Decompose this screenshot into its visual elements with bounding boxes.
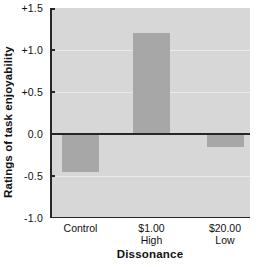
gridline: [50, 176, 250, 177]
bar: [207, 134, 244, 147]
y-tick-mark: [50, 175, 55, 177]
bar: [62, 134, 99, 172]
y-tick-label: +1.5: [21, 2, 43, 14]
y-tick-label: 0.0: [28, 128, 43, 140]
y-tick-mark: [50, 217, 55, 219]
x-tick-label: Control: [64, 222, 98, 234]
y-tick-label: +0.5: [21, 86, 43, 98]
x-tick-label-line: Control: [64, 222, 98, 234]
zero-line: [50, 133, 250, 135]
x-tick-labels: Control$1.00High$20.00Low: [50, 222, 250, 248]
bar: [133, 33, 170, 134]
x-tick-label-line: Low: [209, 234, 241, 246]
x-tick-label: $1.00High: [138, 222, 164, 246]
x-tick-label-line: High: [138, 234, 164, 246]
x-tick-label: $20.00Low: [209, 222, 241, 246]
x-axis-title: Dissonance: [50, 248, 250, 260]
x-tick-label-line: $1.00: [138, 222, 164, 234]
y-tick-mark: [50, 133, 55, 135]
y-tick-label: +1.0: [21, 44, 43, 56]
y-tick-labels: +1.5+1.0+0.50.0-0.5-1.0: [0, 8, 46, 218]
x-tick-label-line: $20.00: [209, 222, 241, 234]
y-tick-mark: [50, 49, 55, 51]
dissonance-bar-chart: Ratings of task enjoyability +1.5+1.0+0.…: [0, 0, 257, 267]
y-tick-label: -1.0: [24, 212, 43, 224]
y-tick-label: -0.5: [24, 170, 43, 182]
y-axis-line: [50, 8, 52, 218]
y-tick-mark: [50, 91, 55, 93]
x-axis-line: [50, 217, 250, 219]
y-tick-mark: [50, 8, 55, 10]
plot-area: [50, 8, 250, 218]
